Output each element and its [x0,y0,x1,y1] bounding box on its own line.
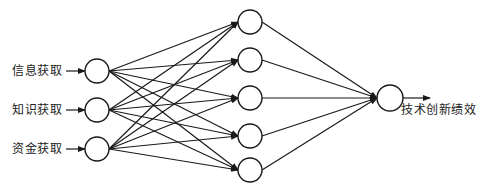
output-label-innovation-performance: 技术创新绩效 [401,103,476,117]
edge-hidden4-output [262,98,377,170]
edge-hidden3-output [262,98,377,136]
hidden-node-1 [238,48,262,72]
neural-network-diagram [0,0,477,190]
input-label-capital: 资金获取 [12,142,62,156]
edge-input2-hidden4 [109,149,238,170]
hidden-node-4 [238,158,262,182]
hidden-node-0 [238,10,262,34]
edge-input1-hidden0 [109,22,238,110]
input-node-2 [85,137,109,161]
edge-input2-hidden1 [109,60,238,149]
network-nodes [85,10,403,182]
output-node [377,85,403,111]
edge-input0-hidden0 [109,22,238,71]
edge-input1-hidden4 [109,110,238,170]
hidden-node-2 [238,86,262,110]
input-node-0 [85,59,109,83]
edge-hidden1-output [262,60,377,98]
edge-input2-hidden3 [109,136,238,149]
edge-input2-hidden2 [109,98,238,149]
edge-hidden0-output [262,22,377,98]
hidden-node-3 [238,124,262,148]
input-label-information: 信息获取 [12,64,62,78]
input-label-knowledge: 知识获取 [12,103,62,117]
input-node-1 [85,98,109,122]
